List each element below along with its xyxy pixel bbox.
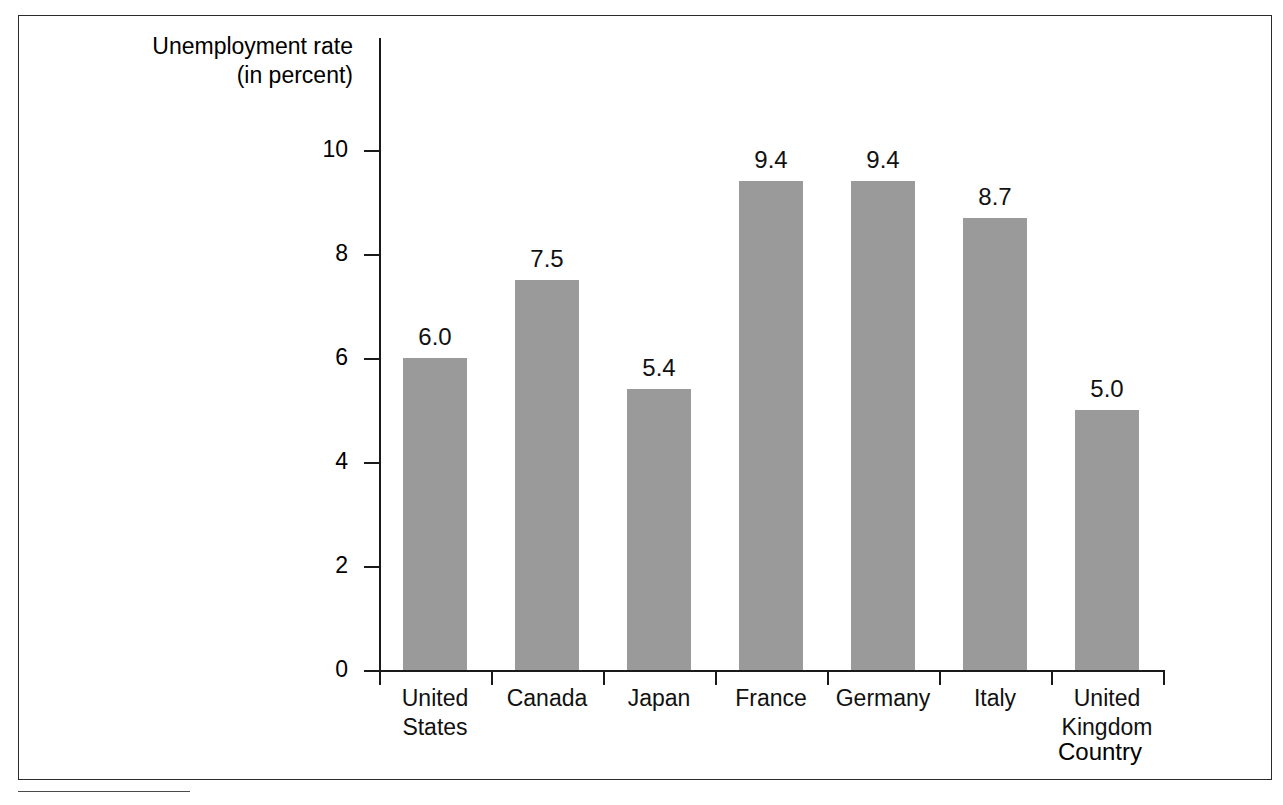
y-axis-tick-label: 2 — [302, 554, 348, 577]
y-axis-tick — [364, 358, 379, 360]
bar-value-label: 5.0 — [1047, 377, 1167, 401]
x-axis-line — [379, 670, 1163, 672]
y-axis-tick — [364, 254, 379, 256]
y-axis-tick — [364, 566, 379, 568]
y-axis-line — [379, 38, 381, 678]
x-axis-category-label: United Kingdom — [1037, 684, 1177, 742]
y-axis-tick-label: 4 — [302, 450, 348, 473]
x-axis-title: Country — [1010, 738, 1190, 766]
x-axis-tick — [491, 670, 493, 685]
y-axis-tick-label: 10 — [302, 138, 348, 161]
x-axis-tick — [603, 670, 605, 685]
x-axis-tick — [827, 670, 829, 685]
bar — [515, 280, 579, 670]
x-axis-tick — [1163, 670, 1165, 685]
x-axis-tick — [1051, 670, 1053, 685]
y-axis-tick — [364, 462, 379, 464]
bar-value-label: 5.4 — [599, 356, 719, 380]
bar — [739, 181, 803, 670]
x-axis-tick — [379, 670, 381, 685]
bar-value-label: 6.0 — [375, 325, 495, 349]
y-axis-tick — [364, 670, 379, 672]
bar — [851, 181, 915, 670]
y-axis-tick-label: 8 — [302, 242, 348, 265]
bar — [1075, 410, 1139, 670]
y-axis-tick-label: 6 — [302, 346, 348, 369]
bar-value-label: 9.4 — [823, 148, 943, 172]
x-axis-tick — [715, 670, 717, 685]
x-axis-tick — [939, 670, 941, 685]
bar-value-label: 8.7 — [935, 185, 1055, 209]
bar-chart: Unemployment rate (in percent) 0246810 6… — [0, 0, 1283, 805]
bar — [403, 358, 467, 670]
bar-value-label: 9.4 — [711, 148, 831, 172]
y-axis-tick — [364, 150, 379, 152]
y-axis-tick-label: 0 — [302, 658, 348, 681]
bar-value-label: 7.5 — [487, 247, 607, 271]
bar — [963, 218, 1027, 670]
y-axis-title: Unemployment rate (in percent) — [95, 32, 353, 90]
bar — [627, 389, 691, 670]
